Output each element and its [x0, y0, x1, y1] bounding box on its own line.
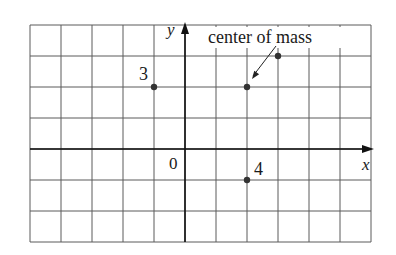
x-axis-arrow-icon — [362, 145, 374, 153]
origin-label: 0 — [169, 154, 178, 173]
mass-label: 4 — [254, 159, 263, 179]
center-of-mass-label: center of mass — [208, 27, 312, 47]
y-axis-arrow-icon — [181, 22, 189, 34]
center-of-mass-diagram: x y 0 3 8 4 center of mass — [0, 0, 396, 255]
center-of-mass-dot — [244, 84, 250, 90]
center-of-mass-arrow — [253, 46, 276, 76]
mass-dot — [244, 177, 250, 183]
axes: x y 0 — [30, 20, 374, 242]
center-of-mass: center of mass — [205, 27, 367, 90]
x-axis-label: x — [361, 155, 370, 174]
mass-label: 3 — [139, 64, 148, 84]
mass-dot — [151, 84, 157, 90]
mass-dot — [275, 53, 281, 59]
arrowhead-icon — [252, 71, 259, 79]
y-axis-label: y — [165, 20, 175, 39]
grid — [30, 25, 371, 242]
